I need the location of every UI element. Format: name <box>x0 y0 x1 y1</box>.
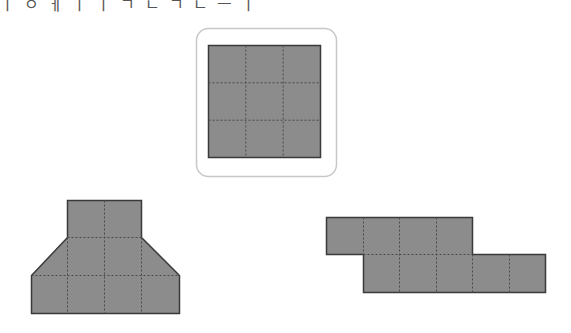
shape-a-outline <box>32 201 180 314</box>
reference-square <box>209 46 321 158</box>
shape-b <box>327 218 546 293</box>
reference-figure <box>197 29 337 177</box>
figure-canvas <box>0 0 571 333</box>
shape-a <box>32 201 180 314</box>
